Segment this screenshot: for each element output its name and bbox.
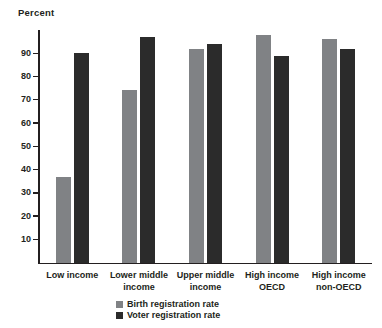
y-axis-tick-label: 90 [0,48,31,58]
bar-voter [74,53,89,262]
x-axis-label: High incomenon-OECD [305,270,372,293]
bar-voter [140,37,155,263]
legend-label-birth: Birth registration rate [127,299,219,309]
y-axis-tick-label: 60 [0,118,31,128]
bar-voter [274,56,289,263]
bar-voter [207,44,222,263]
y-axis-tick [33,192,38,193]
y-axis-tick-label: 40 [0,164,31,174]
legend-swatch-icon-voter [116,312,123,319]
bar-chart: Percent 102030405060708090 Low incomeLow… [0,0,382,328]
x-axis-line [38,263,372,265]
y-axis-tick [33,146,38,147]
x-axis-label: Upper middleincome [172,270,239,293]
y-axis-line [38,30,40,264]
legend-item-voter-registration-rate: Voter registration rate [116,310,266,320]
y-axis-title: Percent [18,7,54,18]
legend-item-birth-registration-rate: Birth registration rate [116,299,266,309]
y-axis-tick-label: 10 [0,234,31,244]
y-axis-tick-label: 20 [0,211,31,221]
x-axis-label: Low income [39,270,106,282]
legend-label-voter: Voter registration rate [127,310,220,320]
y-axis-tick [33,99,38,100]
bar-birth [189,49,204,263]
bar-birth [322,39,337,262]
bar-birth [256,35,271,263]
y-axis-tick [33,76,38,77]
x-axis-label: High incomeOECD [239,270,306,293]
y-axis-tick [33,239,38,240]
bar-birth [56,177,71,263]
y-axis-tick [33,53,38,54]
y-axis-tick-label: 70 [0,94,31,104]
y-axis-tick-label: 30 [0,187,31,197]
y-axis-tick [33,122,38,123]
y-axis-tick-label: 80 [0,71,31,81]
y-axis-tick [33,169,38,170]
chart-legend: Birth registration rate Voter registrati… [0,299,382,320]
bar-voter [340,49,355,263]
y-axis-tick-label: 50 [0,141,31,151]
bar-birth [122,90,137,262]
y-axis-tick [33,215,38,216]
legend-swatch-icon-birth [116,301,123,308]
x-axis-label: Lower middleincome [106,270,173,293]
